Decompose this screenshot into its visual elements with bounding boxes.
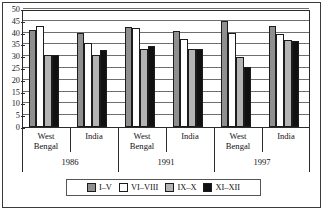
bar: [236, 57, 244, 127]
period-label: 1991: [118, 157, 214, 167]
gridline: [23, 8, 309, 9]
bar-group: [167, 11, 215, 127]
bar: [284, 40, 292, 127]
period-label: 1997: [214, 157, 310, 167]
y-axis-tick-label: 45: [0, 18, 20, 26]
bar: [244, 67, 252, 127]
legend-swatch-icon: [87, 183, 96, 192]
bar: [100, 50, 108, 127]
region-label: India: [166, 131, 214, 141]
legend-swatch-icon: [203, 183, 212, 192]
bar-group: [71, 11, 119, 127]
bar: [29, 30, 37, 127]
plot-area: [22, 10, 310, 128]
y-axis-tick-mark: [21, 10, 25, 11]
bar: [276, 34, 284, 127]
y-axis-tick-mark: [21, 81, 25, 82]
y-axis-tick-mark: [21, 104, 25, 105]
bar-group: [119, 11, 167, 127]
y-axis-tick-label: 15: [0, 89, 20, 97]
bar-group: [215, 11, 263, 127]
y-axis-tick-label: 30: [0, 53, 20, 61]
bar: [44, 55, 52, 127]
region-label-line2: Bengal: [226, 141, 250, 151]
region-label-line2: Bengal: [130, 141, 154, 151]
bar: [221, 21, 229, 127]
y-axis-tick-mark: [21, 69, 25, 70]
legend-item[interactable]: XI–XII: [203, 183, 240, 192]
legend-item[interactable]: VI–VIII: [119, 183, 158, 192]
y-axis-tick-label: 0: [0, 124, 20, 132]
bar-group: [23, 11, 71, 127]
y-axis-tick-mark: [21, 45, 25, 46]
y-axis-tick-mark: [21, 34, 25, 35]
y-axis-tick-mark: [21, 128, 25, 129]
legend-swatch-icon: [119, 183, 128, 192]
bar: [180, 39, 188, 128]
bar: [292, 41, 300, 127]
bar: [173, 31, 181, 127]
bar: [36, 26, 44, 127]
y-axis-tick-label: 20: [0, 77, 20, 85]
region-label-line1: West: [38, 131, 55, 141]
plot-wrapper: [22, 10, 310, 128]
bar-chart-figure: 50454035302520151050 WestBengalIndiaWest…: [0, 0, 323, 210]
bar-group: [263, 11, 311, 127]
legend-label: I–V: [99, 183, 112, 192]
bar: [188, 49, 196, 127]
legend-swatch-icon: [165, 183, 174, 192]
y-axis-tick-mark: [21, 22, 25, 23]
y-axis-tick-label: 10: [0, 100, 20, 108]
legend-label: XI–XII: [215, 183, 240, 192]
bar: [92, 55, 100, 127]
bar: [269, 26, 277, 127]
category-axis: WestBengalIndiaWestBengalIndiaWestBengal…: [22, 128, 310, 172]
region-label: India: [262, 131, 310, 141]
region-label: India: [70, 131, 118, 141]
y-axis-labels: 50454035302520151050: [0, 10, 20, 128]
legend-label: VI–VIII: [131, 183, 158, 192]
bar: [77, 33, 85, 127]
region-label-line1: West: [134, 131, 151, 141]
region-label: WestBengal: [214, 131, 262, 151]
bar: [228, 33, 236, 127]
y-axis-tick-label: 35: [0, 41, 20, 49]
y-axis-tick-mark: [21, 116, 25, 117]
bar: [125, 27, 133, 127]
legend-item[interactable]: I–V: [87, 183, 112, 192]
chart-legend: I–VVI–VIIIIX–XXI–XII: [66, 179, 261, 196]
bar: [148, 46, 156, 127]
bar: [84, 43, 92, 127]
region-label-line1: West: [230, 131, 247, 141]
y-axis-tick-label: 25: [0, 65, 20, 73]
bar: [196, 49, 204, 127]
legend-label: IX–X: [177, 183, 196, 192]
y-axis-tick-label: 50: [0, 6, 20, 14]
y-axis-tick-label: 5: [0, 112, 20, 120]
bar: [140, 49, 148, 127]
region-label: WestBengal: [22, 131, 70, 151]
bar: [52, 55, 60, 127]
region-label-line2: Bengal: [34, 141, 58, 151]
y-axis-tick-mark: [21, 57, 25, 58]
y-axis-tick-mark: [21, 93, 25, 94]
y-axis-tick-label: 40: [0, 30, 20, 38]
bar: [132, 28, 140, 127]
period-label: 1986: [22, 157, 118, 167]
legend-item[interactable]: IX–X: [165, 183, 196, 192]
region-label: WestBengal: [118, 131, 166, 151]
